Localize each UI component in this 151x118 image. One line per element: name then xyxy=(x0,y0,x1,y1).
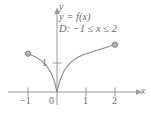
x-tick-label-2: 2 xyxy=(112,96,117,106)
domain-annotation: D: −1 ≤ x ≤ 2 xyxy=(59,24,117,35)
endpoint-dot-left xyxy=(25,51,30,56)
function-annotation: y = f(x) xyxy=(59,12,91,23)
curve-right-branch xyxy=(57,45,115,92)
x-axis-label: x xyxy=(141,86,145,96)
y-axis-label: y xyxy=(59,2,63,12)
x-tick-label-1: 1 xyxy=(83,96,88,106)
endpoint-dot-right xyxy=(112,42,117,47)
graph-figure: y = f(x) D: −1 ≤ x ≤ 2 y x −1 0 1 2 1 xyxy=(0,0,151,118)
y-tick-label-1: 1 xyxy=(42,58,47,68)
x-tick-label-0: 0 xyxy=(49,96,54,106)
x-tick-label-minus-1: −1 xyxy=(20,96,31,106)
